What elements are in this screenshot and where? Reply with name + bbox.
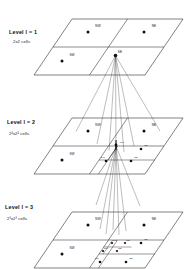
level-2-cell-label-sw: SW bbox=[69, 152, 74, 156]
level-1-cell-label-ne: NE bbox=[152, 24, 157, 28]
level-3-subsubcell-dot-sw bbox=[102, 250, 104, 252]
level-3-cell-dot-ne bbox=[143, 224, 146, 227]
level-2-subtitle: 2²x2² cells bbox=[9, 131, 29, 136]
level-2-subcell-dot-se bbox=[130, 160, 133, 163]
level-1-cell-label-se: SE bbox=[118, 50, 122, 54]
level-2-subcell-label-sw: SW bbox=[101, 156, 106, 158]
level-1-title: Level l = 1 bbox=[9, 29, 37, 35]
fan-lines-level1-to-level2 bbox=[76, 56, 160, 153]
level-3-title: Level l = 3 bbox=[5, 204, 33, 210]
level-2-subcell-label-nw: NW bbox=[120, 141, 125, 143]
fan-lines-level2-to-level3 bbox=[96, 146, 140, 235]
level-1-plane-group: NW NE SW SE Level l = 1 2x2 cells bbox=[9, 19, 183, 75]
level-2-cell-dot-ne bbox=[143, 130, 146, 133]
level-3-subsubcell-dot-ne bbox=[124, 242, 126, 244]
level-3-cell-label-ne: NE bbox=[152, 217, 157, 221]
level-2-subcell-label-se: SE bbox=[134, 156, 138, 158]
level-1-cell-node-se bbox=[114, 54, 118, 58]
level-1-cell-dot-sw bbox=[61, 60, 64, 63]
level-2-se-subdivision bbox=[99, 146, 156, 174]
level-1-cell-label-sw: SW bbox=[69, 53, 74, 57]
level-3-subsubcell-label-se: SE bbox=[118, 247, 122, 249]
level-3-subcell-label-ne: NE bbox=[144, 238, 148, 240]
level-1-cell-dot-ne bbox=[143, 31, 146, 34]
level-2-title: Level l = 2 bbox=[7, 119, 35, 125]
level-3-subcell-label-se: SE bbox=[129, 257, 133, 259]
level-2-subcell-dot-sw bbox=[105, 160, 108, 163]
level-3-subcell-dot-ne bbox=[140, 242, 143, 245]
level-3-subtitle: 2³x2³ cells bbox=[7, 216, 27, 221]
level-1-cell-dot-nw bbox=[87, 31, 90, 34]
level-3-subsubcell-label-sw: SW bbox=[104, 247, 109, 249]
level-3-subcell-dot-sw bbox=[99, 261, 102, 264]
level-2-cell-dot-sw bbox=[61, 159, 64, 162]
quadtree-pyramid-figure: NW NE SW SE Level l = 1 2x2 cells bbox=[0, 0, 196, 269]
level-2-cell-dot-nw bbox=[87, 130, 90, 133]
level-2-subcell-label-ne: NE bbox=[144, 144, 148, 146]
level-3-subsubcell-label-ne: NE bbox=[126, 239, 130, 241]
level-3-cell-dot-sw bbox=[61, 253, 64, 256]
level-2-subcell-dot-ne bbox=[140, 148, 143, 151]
level-3-se-subdivision bbox=[99, 240, 156, 268]
level-3-subsubcell-dot-nw bbox=[111, 242, 113, 244]
level-3-cell-label-sw: SW bbox=[69, 246, 74, 250]
level-1-subtitle: 2x2 cells bbox=[13, 39, 30, 44]
level-2-plane-group: NW NE SW NW NE SW SE Level l = 2 2²x2² c… bbox=[7, 118, 183, 174]
level-2-cell-label-nw: NW bbox=[95, 123, 100, 127]
level-3-plane-group: NW NE SW NE SW SE NW NE SW SE Level l = … bbox=[5, 204, 183, 268]
level-1-cell-label-nw: NW bbox=[95, 24, 100, 28]
level-3-subsubcell-dot-se bbox=[116, 250, 118, 252]
level-3-cell-label-nw: NW bbox=[95, 217, 100, 221]
level-3-cell-dot-nw bbox=[87, 224, 90, 227]
level-3-subcell-dot-se bbox=[125, 261, 128, 264]
level-2-cell-label-ne: NE bbox=[152, 123, 157, 127]
level-3-subcell-label-sw: SW bbox=[95, 257, 100, 259]
